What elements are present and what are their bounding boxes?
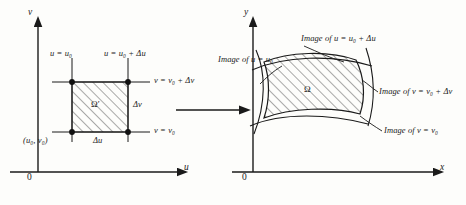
left-origin-label: 0 xyxy=(27,173,32,183)
left-axis-x-label: u xyxy=(184,163,189,173)
corner-dot xyxy=(125,129,131,135)
right-origin-label: 0 xyxy=(242,173,247,183)
label-v-equals-v0-plus-dv: v = v₀ + Δv xyxy=(154,76,194,85)
label-omega: Ω xyxy=(304,85,311,94)
label-delta-v: Δv xyxy=(133,100,142,109)
right-axis-x-label: x xyxy=(440,163,444,173)
label-v-equals-v0: v = v₀ xyxy=(154,126,175,135)
label-image-of-v-equals-v0-plus-dv: Image of v = v₀ + Δv xyxy=(379,87,452,96)
label-u-equals-u0: u = u₀ xyxy=(50,49,72,58)
corner-dot xyxy=(125,79,131,85)
leader-image-v0-plus-dv xyxy=(362,80,378,92)
left-region-rectangle xyxy=(72,82,128,132)
label-image-of-u-equals-u0: Image of u = u₀ xyxy=(218,55,273,64)
omega-hatch xyxy=(264,53,363,118)
change-of-variables-figure: v u 0 u = u₀ u = u₀ + Δu v = v₀ + Δv v =… xyxy=(0,0,466,205)
label-u-equals-u0-plus-du: u = u₀ + Δu xyxy=(104,49,146,58)
figure-vector-layer xyxy=(0,0,466,205)
label-image-of-u-equals-u0-plus-du: Image of u = u₀ + Δu xyxy=(301,34,376,43)
right-axis-y-label: y xyxy=(244,8,248,18)
right-region-blob xyxy=(264,53,363,118)
curve-image-u-equals-u0-plus-du xyxy=(366,48,373,126)
label-omega-prime: Ω′ xyxy=(91,100,100,109)
label-corner-point: (u₀, v₀) xyxy=(23,136,48,145)
corner-dot xyxy=(69,129,75,135)
label-delta-u: Δu xyxy=(93,136,102,145)
left-axis-y-label: v xyxy=(28,8,32,18)
leader-image-v0 xyxy=(360,116,382,131)
label-image-of-v-equals-v0: Image of v = v₀ xyxy=(384,126,438,135)
corner-dot xyxy=(69,79,75,85)
omega-prime-hatch xyxy=(72,82,128,132)
curve-image-v-equals-v0 xyxy=(250,116,368,126)
